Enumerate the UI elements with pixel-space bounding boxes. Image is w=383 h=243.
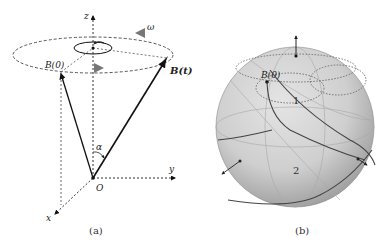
figure: z y x O ω B(0) B(t) α (a): [0, 0, 383, 243]
region-2-label: 2: [293, 165, 299, 176]
origin-label: O: [96, 183, 104, 193]
panel-b: B(0) 1 2 (b): [216, 36, 375, 236]
bloch-sphere: [216, 47, 374, 207]
right-dot: [357, 158, 360, 161]
center-dot: [92, 47, 95, 50]
left-dot: [239, 160, 242, 163]
north-pole-dot: [294, 54, 297, 57]
b0-label: B(0): [44, 60, 65, 70]
b0-vector: [61, 74, 93, 178]
caption-b: (b): [295, 225, 309, 236]
alpha-arc: [93, 152, 104, 158]
caption-a: (a): [89, 225, 103, 236]
b0-label-b: B(0): [260, 70, 281, 80]
region-1-label: 1: [293, 95, 299, 106]
bt-vector: [93, 61, 165, 178]
orbit-arrow-front: [94, 63, 104, 73]
orbit-arrow-back: [135, 28, 145, 38]
z-axis-label: z: [83, 11, 89, 21]
omega-label: ω: [147, 22, 155, 32]
y-axis-label: y: [168, 164, 175, 174]
x-axis-label: x: [46, 213, 51, 223]
bt-label: B(t): [169, 65, 193, 76]
panel-a: z y x O ω B(0) B(t) α (a): [13, 11, 193, 236]
alpha-label: α: [96, 142, 102, 152]
